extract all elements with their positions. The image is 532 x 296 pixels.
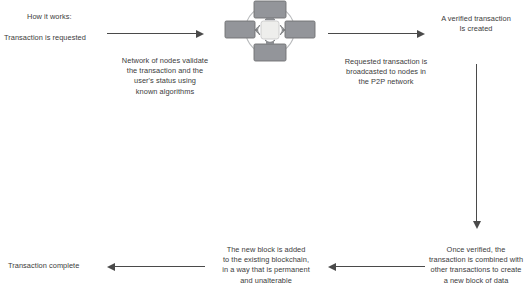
arrow-verified-to-block <box>471 64 482 229</box>
diagram-title: How it works: <box>27 12 147 22</box>
central-ledger-block <box>261 21 279 39</box>
step-verified-transaction: A verified transaction Is created <box>424 14 528 34</box>
arrow-head <box>473 221 481 229</box>
step-broadcast-p2p: Requested transaction is broadcasted to … <box>325 57 447 88</box>
arrow-request-to-network <box>107 28 204 39</box>
arrow-head <box>328 263 336 271</box>
arrow-network-to-verified <box>328 28 425 39</box>
arrow-shaft <box>107 33 197 34</box>
node-right <box>285 21 315 38</box>
arrow-block-to-chain <box>328 261 425 272</box>
step-nodes-validate: Network of nodes validate the transactio… <box>100 56 230 97</box>
p2p-network-illustration <box>224 0 316 62</box>
arrow-chain-to-complete <box>107 261 205 272</box>
step-block-added: The new block is added to the existing b… <box>205 245 327 286</box>
arrow-shaft <box>328 33 418 34</box>
arrow-shaft <box>114 266 205 267</box>
step-transaction-complete: Transaction complete <box>8 261 108 271</box>
node-bottom <box>254 42 286 61</box>
blockchain-how-it-works-diagram: How it works: Transaction is requested N… <box>0 0 532 296</box>
node-top <box>254 1 286 20</box>
step-new-block-of-data: Once verified, the transaction is combin… <box>421 245 531 286</box>
arrow-head <box>107 263 115 271</box>
step-transaction-requested: Transaction is requested <box>4 33 108 43</box>
arrow-shaft <box>335 266 425 267</box>
arrow-shaft <box>476 64 477 222</box>
node-left <box>225 21 255 38</box>
arrow-head <box>196 30 204 38</box>
